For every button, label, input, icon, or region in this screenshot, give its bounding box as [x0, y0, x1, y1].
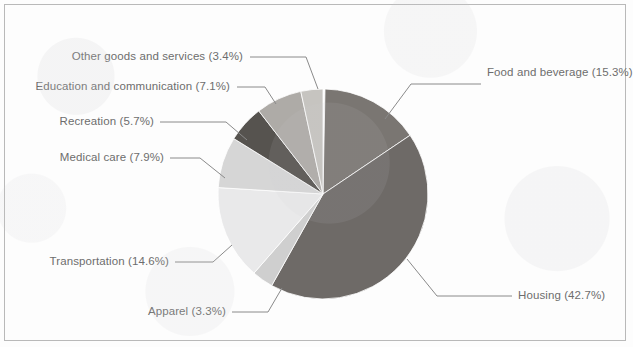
leader-line-food-and-beverage: [385, 84, 481, 119]
leader-line-transportation: [175, 245, 232, 262]
leader-line-apparel: [232, 288, 282, 312]
leader-line-other-goods-and-services: [250, 57, 318, 89]
slice-label-apparel: Apparel (3.3%): [148, 305, 226, 318]
leader-line-housing: [407, 259, 512, 296]
slice-label-other-goods-and-services: Other goods and services (3.4%): [72, 50, 243, 63]
leader-line-recreation: [160, 122, 247, 140]
slice-label-medical-care: Medical care (7.9%): [60, 151, 164, 164]
slice-label-education-and-communication: Education and communication (7.1%): [35, 80, 230, 93]
slice-label-housing: Housing (42.7%): [518, 289, 605, 302]
slice-label-recreation: Recreation (5.7%): [60, 115, 154, 128]
leader-line-education-and-communication: [237, 87, 276, 104]
slice-label-food-and-beverage: Food and beverage (15.3%): [487, 66, 633, 79]
chart-page: Other goods and services (3.4%) Educatio…: [0, 0, 633, 347]
pie-slices-group: [218, 89, 428, 299]
leader-line-medical-care: [170, 158, 225, 178]
slice-label-transportation: Transportation (14.6%): [50, 255, 169, 268]
